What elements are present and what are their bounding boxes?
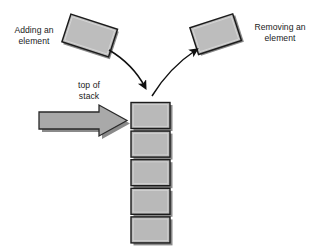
incoming-element[interactable] xyxy=(61,14,119,59)
outgoing-element[interactable] xyxy=(190,13,244,56)
label-top-of-stack: top of stack xyxy=(59,80,119,102)
stack-element-3[interactable] xyxy=(131,188,173,217)
pop-arrow xyxy=(152,50,196,96)
stack-element-1[interactable] xyxy=(131,131,173,160)
stack-element-0[interactable] xyxy=(131,103,173,132)
label-adding-an-element: Adding an element xyxy=(2,25,66,47)
label-removing-an-element: Removing an element xyxy=(246,22,314,44)
stack-element-4[interactable] xyxy=(131,217,173,246)
stack-column xyxy=(131,103,173,246)
stack-element-2[interactable] xyxy=(131,160,173,189)
top-of-stack-pointer xyxy=(39,105,130,139)
diagram-canvas: Adding an element Removing an element to… xyxy=(0,0,314,249)
